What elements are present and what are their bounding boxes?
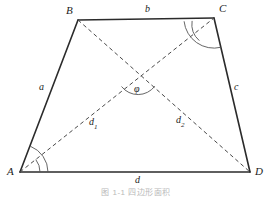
side-label-c: c [234, 82, 238, 92]
vertex-label-c: C [219, 3, 226, 14]
diagonal-bd-line [78, 20, 250, 172]
side-label-b: b [145, 4, 150, 14]
diagonal-label-d1: d1 [89, 117, 98, 130]
side-label-d: d [135, 175, 140, 185]
angle-a-outer-arc [30, 146, 48, 172]
diagonal-label-d2: d2 [176, 115, 185, 128]
diagonal-label-d2-subscript: 2 [181, 121, 185, 129]
side-label-a: a [39, 82, 44, 92]
quadrilateral-diagram [0, 0, 272, 197]
figure-container: A B C D a b c d d1 d2 φ 图 1-1 四边形面积 [0, 0, 272, 197]
vertex-label-d: D [255, 166, 263, 177]
diagonal-label-d1-subscript: 1 [94, 123, 98, 131]
vertex-label-a: A [7, 166, 14, 177]
angle-a-inner-arc [36, 160, 40, 172]
side-cd-line [214, 18, 250, 172]
figure-caption: 图 1-1 四边形面积 [0, 186, 272, 197]
angle-label-phi: φ [134, 84, 140, 94]
vertex-label-b: B [66, 5, 73, 16]
side-bc-line [78, 18, 214, 20]
